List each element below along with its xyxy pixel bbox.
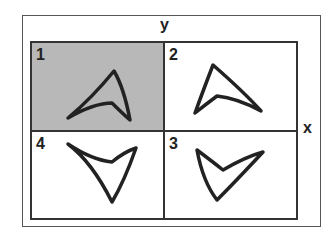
- quadrant-2: 2: [165, 43, 296, 132]
- boomerang-shape-4: [32, 132, 163, 216]
- quadrant-grid: 1 2 4 3: [30, 41, 298, 220]
- quadrant-3: 3: [165, 132, 296, 218]
- x-axis-label: x: [303, 119, 312, 137]
- boomerang-shape-3: [165, 132, 296, 216]
- quadrant-4: 4: [32, 132, 165, 218]
- quadrant-1: 1: [32, 43, 165, 132]
- y-axis-label: y: [160, 16, 169, 34]
- boomerang-shape-1: [32, 43, 163, 130]
- boomerang-shape-2: [165, 43, 296, 130]
